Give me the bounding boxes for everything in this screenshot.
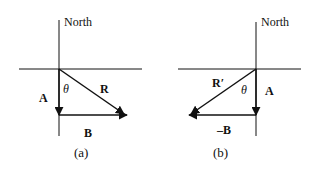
theta-label-b: θ (241, 84, 247, 96)
caption-b: (b) (213, 146, 228, 159)
caption-a: (a) (74, 146, 88, 159)
north-label-b: North (261, 16, 289, 28)
vector-r-prime-label: R′ (212, 77, 224, 89)
vector-b-label: B (84, 127, 92, 139)
vector-a-label-b: A (265, 85, 274, 97)
vector-r-label: R (100, 83, 109, 95)
theta-label-a: θ (63, 83, 69, 95)
panel-a (19, 20, 142, 136)
vector-neg-b-label: –B (217, 124, 231, 136)
north-label-a: North (64, 16, 92, 28)
vector-a-label-a: A (39, 92, 48, 104)
panel-b (178, 22, 301, 136)
